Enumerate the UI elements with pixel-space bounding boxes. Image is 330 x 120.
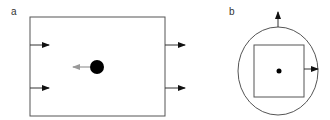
panel-b (238, 12, 318, 115)
panel-a (30, 17, 185, 116)
center-dot (277, 69, 282, 74)
ball (90, 60, 104, 74)
diagram-canvas (0, 0, 330, 120)
